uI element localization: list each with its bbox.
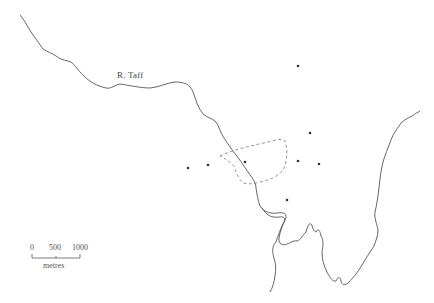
site-dot [297,160,300,163]
west-bank-line [260,206,321,245]
scale-tick-0: 0 [30,243,34,252]
site-dot [297,65,300,68]
site-dot [286,199,289,202]
scale-tick-500: 500 [49,243,61,252]
scale-tick-1000: 1000 [72,243,88,252]
river-taff-line [20,15,260,206]
site-dot [244,161,247,164]
east-shore-line [321,111,420,285]
scale-unit-label: metres [43,261,64,270]
site-dot [207,164,210,167]
river-label: R. Taff [117,70,143,80]
site-dot [318,163,321,166]
west-shore-line [270,242,276,292]
scale-bar [32,254,80,258]
map-canvas: R. Taff 0 500 1000 metres [0,0,434,303]
site-dot [309,132,312,135]
site-dot [187,167,190,170]
map-drawing [0,0,434,303]
